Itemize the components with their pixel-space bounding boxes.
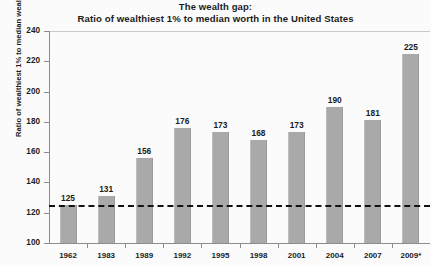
bar [98,196,115,243]
bar [250,140,267,243]
bar-value-label: 168 [239,129,279,138]
x-axis-tick [163,244,164,248]
bar-value-label: 125 [48,194,88,203]
y-axis-tick-label: 140 [0,178,40,186]
bar-chart: The wealth gap: Ratio of wealthiest 1% t… [0,0,431,266]
y-axis-title-text: Ratio of wealthiest 1% to median wealth [14,0,23,137]
bar [136,158,153,243]
chart-title-line-1: The wealth gap: [0,1,431,13]
x-axis-tick [125,244,126,248]
bar [326,107,343,243]
bar-value-label: 173 [277,121,317,130]
y-axis-tick [44,213,49,214]
bar [402,54,419,243]
x-axis-tick [240,244,241,248]
x-axis-tick [87,244,88,248]
x-axis-tick-label: 2004 [315,251,355,260]
y-axis-tick-label: 240 [0,27,40,35]
x-axis-tick-label: 1983 [86,251,126,260]
y-axis-tick [44,61,49,62]
y-axis-tick-label: 200 [0,88,40,96]
bar-value-label: 181 [353,109,393,118]
x-axis-tick-label: 1992 [162,251,202,260]
bar [288,132,305,243]
y-axis-tick [44,243,49,244]
x-axis-tick-label: 1998 [239,251,279,260]
plot-top-border [49,31,430,32]
bar-value-label: 173 [200,121,240,130]
x-axis-tick [278,244,279,248]
y-axis-tick-label: 220 [0,57,40,65]
x-axis-tick-label: 2007 [353,251,393,260]
y-axis-title: Ratio of wealthiest 1% to median wealth [7,0,21,165]
bar-value-label: 190 [315,96,355,105]
reference-line [49,205,430,207]
bar [60,205,77,243]
bar [364,120,381,243]
y-axis-tick-label: 100 [0,239,40,247]
y-axis-tick [44,182,49,183]
bar-value-label: 131 [86,185,126,194]
x-axis-tick-label: 2001 [277,251,317,260]
chart-title: The wealth gap: Ratio of wealthiest 1% t… [0,1,431,25]
y-axis-tick [44,152,49,153]
x-axis-tick-label: 1995 [200,251,240,260]
y-axis-tick [44,31,49,32]
bar [174,128,191,243]
y-axis-tick [44,92,49,93]
y-axis-tick-label: 120 [0,209,40,217]
x-axis-tick [392,244,393,248]
y-axis-tick [44,122,49,123]
bar [212,132,229,243]
y-axis-line [49,31,50,244]
chart-title-line-2: Ratio of wealthiest 1% to median worth i… [0,13,431,25]
y-axis-tick-label: 160 [0,148,40,156]
y-axis-tick-label: 180 [0,118,40,126]
x-axis-tick-label: 1989 [124,251,164,260]
x-axis-tick [354,244,355,248]
bar-value-label: 156 [124,147,164,156]
x-axis-tick-label: 2009* [391,251,431,260]
bar-value-label: 176 [162,117,202,126]
bar-value-label: 225 [391,43,431,52]
x-axis-tick [316,244,317,248]
x-axis-tick [201,244,202,248]
x-axis-tick-label: 1962 [48,251,88,260]
